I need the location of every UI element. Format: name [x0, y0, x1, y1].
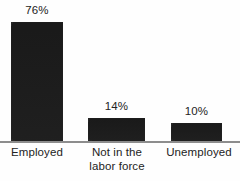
bar-chart: 76% 14% 10% Employed Not in the labor fo… [0, 0, 240, 181]
category-label-not-in-the-labor-force-line2: labor force [82, 160, 152, 174]
category-label-not-in-the-labor-force: Not in the labor force [82, 146, 152, 173]
bar-employed [11, 22, 63, 142]
value-label-not-in-the-labor-force: 14% [88, 100, 145, 112]
value-label-employed: 76% [11, 4, 63, 16]
bar-unemployed [171, 123, 222, 142]
x-axis-baseline [0, 141, 240, 143]
bar-not-in-the-labor-force [88, 118, 145, 142]
category-label-employed: Employed [2, 146, 72, 160]
category-label-not-in-the-labor-force-line1: Not in the [92, 146, 142, 158]
category-label-employed-line1: Employed [11, 146, 63, 158]
category-label-unemployed: Unemployed [160, 146, 238, 160]
value-label-unemployed: 10% [171, 105, 222, 117]
plot-area [0, 0, 240, 142]
category-label-unemployed-line1: Unemployed [166, 146, 232, 158]
